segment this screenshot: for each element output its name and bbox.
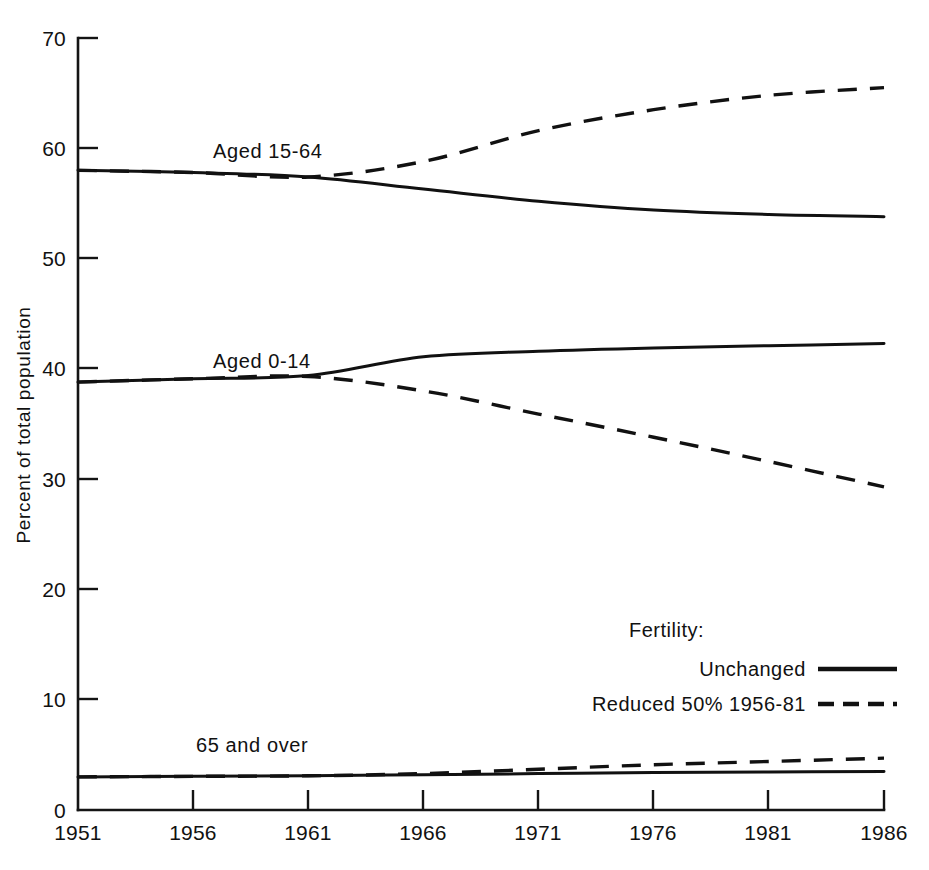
y-tick-label: 0 — [54, 799, 66, 822]
y-tick-label: 60 — [42, 137, 66, 160]
figure-container: 70 60 50 40 30 20 10 0 1951 1956 1961 19… — [0, 0, 929, 870]
annotation-aged-0-14: Aged 0-14 — [213, 350, 311, 372]
x-tick-label: 1976 — [629, 821, 677, 844]
y-tick-label: 40 — [42, 357, 66, 380]
x-tick-label: 1986 — [860, 821, 908, 844]
legend-title: Fertility: — [629, 619, 704, 641]
x-tick-label: 1961 — [284, 821, 332, 844]
y-tick-label: 50 — [42, 247, 66, 270]
series-line — [78, 343, 884, 382]
series-line — [78, 771, 884, 777]
x-axis-ticks — [193, 790, 884, 810]
y-axis-ticks — [78, 38, 98, 699]
x-tick-label: 1951 — [54, 821, 102, 844]
y-tick-label: 20 — [42, 578, 66, 601]
series-line — [78, 170, 884, 216]
x-tick-label: 1981 — [744, 821, 792, 844]
series-line — [78, 88, 884, 178]
legend-label-reduced: Reduced 50% 1956-81 — [592, 693, 806, 715]
annotation-aged-15-64: Aged 15-64 — [213, 140, 322, 162]
x-tick-label: 1971 — [514, 821, 562, 844]
x-tick-label: 1966 — [399, 821, 447, 844]
annotation-65-and-over: 65 and over — [196, 734, 308, 756]
line-chart: 70 60 50 40 30 20 10 0 1951 1956 1961 19… — [0, 0, 929, 870]
x-axis-tick-labels: 1951 1956 1961 1966 1971 1976 1981 1986 — [54, 821, 908, 844]
y-axis-tick-labels: 70 60 50 40 30 20 10 0 — [42, 27, 66, 822]
y-axis-title: Percent of total population — [13, 307, 34, 544]
legend-label-unchanged: Unchanged — [699, 658, 806, 680]
y-tick-label: 30 — [42, 468, 66, 491]
y-tick-label: 10 — [42, 688, 66, 711]
legend: Fertility: Unchanged Reduced 50% 1956-81 — [592, 619, 897, 715]
y-tick-label: 70 — [42, 27, 66, 50]
x-tick-label: 1956 — [169, 821, 217, 844]
series-line — [78, 376, 884, 487]
